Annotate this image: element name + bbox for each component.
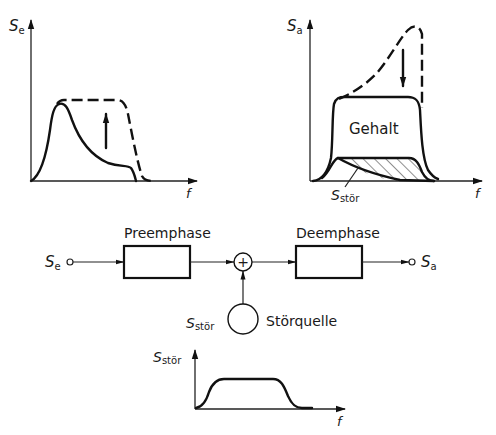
noise-source-label: Störquelle xyxy=(266,313,337,329)
preemphasized-output-curve xyxy=(339,27,422,108)
input-spectrum-chart: Se f xyxy=(9,17,197,201)
x-axis-label: f xyxy=(475,186,482,201)
noise-spectrum-chart: Sstör f xyxy=(153,349,345,429)
deemphase-block xyxy=(296,246,362,278)
input-terminal xyxy=(67,259,73,265)
content-label: Gehalt xyxy=(349,120,399,138)
block-diagram: Se Preemphase + Deemphase Sa Störquelle … xyxy=(45,225,437,334)
preemphase-label: Preemphase xyxy=(124,225,211,241)
preemphase-block xyxy=(124,246,190,278)
x-axis-label: f xyxy=(186,186,193,201)
noise-hatched-region xyxy=(340,158,427,181)
preemphasis-diagram: Se f Sa f Gehalt Sstör Se xyxy=(0,0,496,435)
plus-icon: + xyxy=(237,254,249,270)
y-axis-label: Sstör xyxy=(153,349,182,366)
output-terminal xyxy=(409,259,415,265)
output-spectrum-chart: Sa f Gehalt Sstör xyxy=(287,17,482,204)
x-axis-label: f xyxy=(337,414,344,429)
input-label: Se xyxy=(45,253,61,272)
noise-label: Sstör xyxy=(331,187,360,204)
noise-source-circle xyxy=(228,304,258,334)
output-label: Sa xyxy=(421,253,437,272)
noise-signal-label: Sstör xyxy=(186,315,215,332)
deemphase-label: Deemphase xyxy=(296,225,380,241)
original-spectrum-curve xyxy=(31,104,136,181)
y-axis-label: Se xyxy=(9,17,25,36)
y-axis-label: Sa xyxy=(287,17,303,36)
noise-spectrum-curve xyxy=(196,379,312,408)
noise-leader-line xyxy=(345,168,358,187)
